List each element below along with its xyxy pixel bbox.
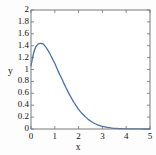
x-tick-label: 0 bbox=[21, 132, 41, 141]
y-tick-label: 1.4 bbox=[18, 41, 29, 50]
x-tick-label: 3 bbox=[92, 132, 112, 141]
x-tick-label: 5 bbox=[140, 132, 156, 141]
y-tick-label: 2 bbox=[25, 5, 30, 14]
y-tick-label: 0.6 bbox=[18, 88, 29, 97]
y-tick-label: 0.8 bbox=[18, 76, 29, 85]
plot-background bbox=[31, 10, 150, 129]
y-tick-label: 1.8 bbox=[18, 17, 29, 26]
x-axis-label: x bbox=[0, 142, 156, 152]
y-tick-label: 0.4 bbox=[18, 100, 29, 109]
y-tick-label: 1.2 bbox=[18, 53, 29, 62]
x-tick-label: 1 bbox=[45, 132, 65, 141]
y-tick-label: 1 bbox=[25, 65, 30, 74]
y-tick-label: 0.2 bbox=[18, 112, 29, 121]
chart-figure: 00.20.40.60.811.21.41.61.82 012345 y x bbox=[0, 0, 156, 155]
y-axis-label: y bbox=[8, 66, 13, 76]
x-tick-label: 2 bbox=[69, 132, 89, 141]
x-tick-label: 4 bbox=[116, 132, 136, 141]
y-tick-label: 1.6 bbox=[18, 29, 29, 38]
